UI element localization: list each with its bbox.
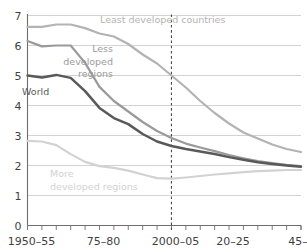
x-tick-label-4: 45–50 (288, 235, 307, 248)
y-tick-label-0: 0 (15, 220, 22, 233)
series-line-least-developed-countries (28, 25, 302, 153)
fertility-line-chart: 012345671950–5575–802000–0520–2545–50Lea… (0, 0, 307, 252)
y-tick-label-4: 4 (15, 100, 22, 113)
x-tick-label-3: 20–25 (216, 235, 250, 248)
label-less-developed-regions-line-2: regions (78, 68, 113, 79)
y-tick-label-2: 2 (15, 160, 22, 173)
y-tick-label-5: 5 (15, 70, 22, 83)
y-tick-label-3: 3 (15, 130, 22, 143)
y-tick-label-7: 7 (15, 10, 22, 23)
label-least-developed-countries-line-0: Least developed countries (100, 14, 225, 25)
y-tick-label-1: 1 (15, 190, 22, 203)
label-less-developed-regions-line-0: Less (92, 43, 113, 54)
label-less-developed-regions-line-1: developed (63, 56, 113, 67)
x-tick-label-0: 1950–55 (8, 235, 56, 248)
label-more-developed-regions-line-0: More (50, 168, 74, 179)
x-tick-label-2: 2000–05 (152, 235, 200, 248)
label-more-developed-regions-line-1: developed regions (50, 181, 138, 192)
chart-plot-area: 012345671950–5575–802000–0520–2545–50Lea… (0, 0, 307, 252)
label-world-line-0: World (22, 86, 49, 97)
y-tick-label-6: 6 (15, 40, 22, 53)
x-tick-label-1: 75–80 (87, 235, 121, 248)
